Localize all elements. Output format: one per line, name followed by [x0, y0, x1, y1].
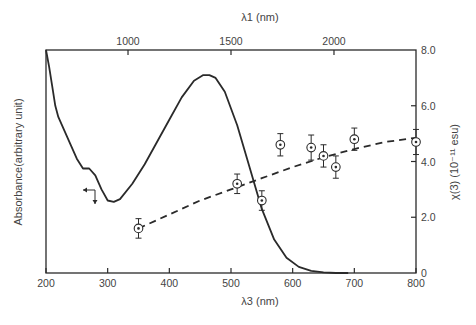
- data-point: [332, 156, 341, 178]
- right-axis: 02.04.06.08.0: [411, 44, 436, 279]
- svg-text:400: 400: [161, 277, 179, 289]
- svg-text:600: 600: [284, 277, 302, 289]
- svg-text:8.0: 8.0: [421, 44, 436, 56]
- bottom-axis: 200300400500600700800: [37, 268, 425, 289]
- svg-text:300: 300: [99, 277, 117, 289]
- svg-text:0: 0: [421, 267, 427, 279]
- svg-text:1500: 1500: [219, 35, 243, 47]
- top-axis: 100015002000: [116, 35, 345, 55]
- svg-text:200: 200: [37, 277, 55, 289]
- svg-text:500: 500: [222, 277, 240, 289]
- bottom-axis-title: λ3 (nm): [241, 295, 278, 307]
- data-point: [258, 191, 267, 211]
- right-axis-title: χ(3) (10⁻¹¹ esu): [448, 124, 460, 200]
- data-point: [233, 174, 242, 194]
- data-point: [276, 134, 285, 156]
- chart: 200300400500600700800 100015002000 02.04…: [0, 0, 476, 325]
- svg-text:2.0: 2.0: [421, 211, 436, 223]
- top-axis-title: λ1 (nm): [241, 11, 278, 23]
- svg-text:6.0: 6.0: [421, 100, 436, 112]
- svg-text:4.0: 4.0: [421, 156, 436, 168]
- data-point: [307, 135, 316, 160]
- data-point: [134, 219, 143, 239]
- data-point: [319, 145, 328, 167]
- svg-text:2000: 2000: [322, 35, 346, 47]
- left-axis-title: Absorbance(arbitrary unit): [12, 98, 24, 225]
- chi3-trend-line: [139, 138, 417, 229]
- left-axis-indicator-arrow-icon: [83, 188, 98, 205]
- data-point: [350, 128, 359, 150]
- svg-text:1000: 1000: [116, 35, 140, 47]
- plot-frame: [46, 50, 416, 273]
- svg-text:700: 700: [346, 277, 364, 289]
- absorbance-curve: [46, 50, 348, 273]
- data-point: [412, 129, 421, 154]
